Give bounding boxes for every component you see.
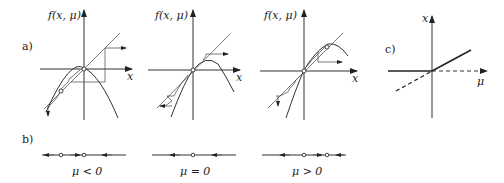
panel-label-a: a)	[22, 40, 33, 53]
stable-branch-right	[432, 50, 471, 71]
map-curve	[171, 60, 234, 117]
map-curve	[46, 66, 118, 118]
bifurcation-figure: a) b) c) f(x, μ) x f(x, μ) x f(x,	[0, 0, 504, 183]
fixed-point-stable	[325, 45, 329, 49]
fixed-point-unstable	[59, 153, 63, 157]
y-axis-label: f(x, μ)	[263, 9, 297, 22]
fixed-point-stable	[82, 153, 86, 157]
cobweb-left	[165, 75, 188, 106]
vertical-axis-label: x	[422, 12, 429, 25]
caption: μ = 0	[180, 165, 210, 178]
unstable-branch	[396, 71, 432, 91]
phase-line-mu-zero: μ = 0	[152, 153, 236, 178]
fixed-point-stable	[82, 67, 86, 71]
x-axis-label: x	[127, 70, 134, 83]
cobweb-lower	[276, 76, 300, 96]
caption: μ > 0	[292, 165, 322, 178]
fixed-point-unstable	[302, 69, 306, 73]
cobweb-upper	[307, 46, 328, 66]
x-axis-label: x	[236, 71, 243, 84]
y-axis-label: f(x, μ)	[47, 9, 81, 22]
caption: μ < 0	[72, 165, 102, 178]
fixed-point-unstable	[59, 89, 63, 93]
fixed-point-unstable	[302, 153, 306, 157]
phase-line-mu-negative: μ < 0	[42, 153, 126, 178]
horizontal-axis-label: μ	[477, 75, 484, 88]
subplot-mu-zero: f(x, μ) x	[148, 9, 243, 120]
fixed-point-stable	[325, 153, 329, 157]
subplot-mu-negative: f(x, μ) x	[40, 9, 134, 120]
x-axis-label: x	[352, 72, 359, 85]
panel-label-c: c)	[385, 43, 395, 56]
fixed-point-semistable	[191, 153, 195, 157]
panel-label-b: b)	[22, 133, 33, 146]
subplot-mu-positive: f(x, μ) x	[260, 9, 359, 120]
fixed-point-semistable	[191, 68, 195, 72]
phase-line-mu-positive: μ > 0	[262, 153, 346, 178]
bifurcation-diagram: x μ	[388, 12, 487, 118]
y-axis-label: f(x, μ)	[154, 9, 188, 22]
